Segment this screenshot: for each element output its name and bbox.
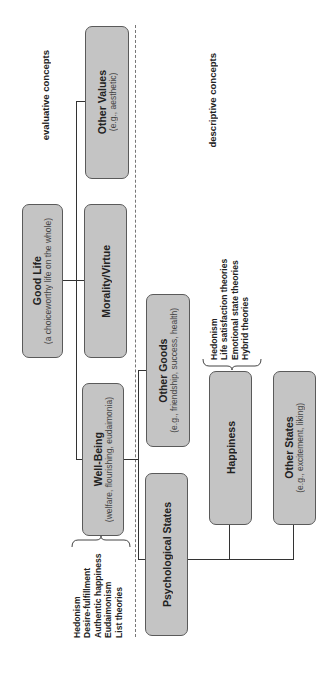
node-good-life: Good Life (a choiceworthy life on the wh… bbox=[22, 204, 63, 358]
node-morality-virtue: Morality/Virtue bbox=[84, 204, 127, 358]
node-other-states: Other States (e.g., excitement, liking) bbox=[273, 371, 316, 525]
node-title: Other States bbox=[283, 417, 295, 479]
node-title: Well-Being bbox=[92, 432, 104, 486]
node-psychological-states: Psychological States bbox=[145, 473, 188, 636]
node-happiness: Happiness bbox=[209, 371, 252, 525]
node-title: Other Goods bbox=[157, 338, 169, 402]
evaluative-concepts-label: evaluative concepts bbox=[40, 50, 51, 140]
node-subtitle: (e.g., friendship, success, health) bbox=[169, 308, 180, 433]
well-being-theories-brace bbox=[70, 536, 132, 548]
connector-other-states bbox=[293, 524, 294, 560]
node-title: Happiness bbox=[225, 421, 237, 474]
theory-item: Hybrid theories bbox=[240, 240, 250, 360]
well-being-theories-list: Hedonism Desire-fulfillment Authentic ha… bbox=[72, 548, 124, 638]
node-subtitle: (e.g., excitement, liking) bbox=[295, 403, 306, 493]
theory-item: Hedonism bbox=[209, 240, 219, 360]
node-well-being: Well-Being (welfare, flourishing, eudaim… bbox=[82, 383, 124, 536]
connector-good-life-morality bbox=[62, 280, 84, 281]
node-title: Good Life bbox=[31, 257, 43, 306]
happiness-theories-list: Hedonism Life satisfaction theories Emot… bbox=[209, 240, 251, 360]
connector-other-values bbox=[76, 101, 85, 102]
connector-well-being-vertical bbox=[138, 370, 139, 560]
node-other-goods: Other Goods (e.g., friendship, success, … bbox=[146, 294, 190, 447]
connector-psych-states-right bbox=[188, 559, 294, 560]
connector-other-goods bbox=[138, 370, 146, 371]
evaluative-descriptive-divider bbox=[135, 25, 136, 637]
node-title: Morality/Virtue bbox=[100, 245, 112, 318]
theory-item: Desire-fulfillment bbox=[82, 548, 92, 638]
descriptive-concepts-label: descriptive concepts bbox=[207, 53, 218, 148]
node-title: Other Values bbox=[96, 70, 108, 134]
node-subtitle: (a choiceworthy life on the whole) bbox=[43, 218, 54, 344]
node-other-values: Other Values (e.g., aesthetic) bbox=[85, 26, 129, 179]
node-subtitle: (e.g., aesthetic) bbox=[108, 73, 119, 132]
node-subtitle: (welfare, flourishing, eudaimonia) bbox=[104, 397, 115, 522]
theory-item: Emotional state theories bbox=[230, 240, 240, 360]
connector-well-being-right bbox=[124, 459, 139, 460]
theory-item: Eudaimonism bbox=[103, 548, 113, 638]
connector-happiness bbox=[229, 524, 230, 560]
theory-item: Authentic happiness bbox=[93, 548, 103, 638]
theory-item: Hedonism bbox=[72, 548, 82, 638]
node-title: Psychological States bbox=[161, 502, 173, 607]
theory-item: List theories bbox=[114, 548, 124, 638]
theory-item: Life satisfaction theories bbox=[219, 240, 229, 360]
